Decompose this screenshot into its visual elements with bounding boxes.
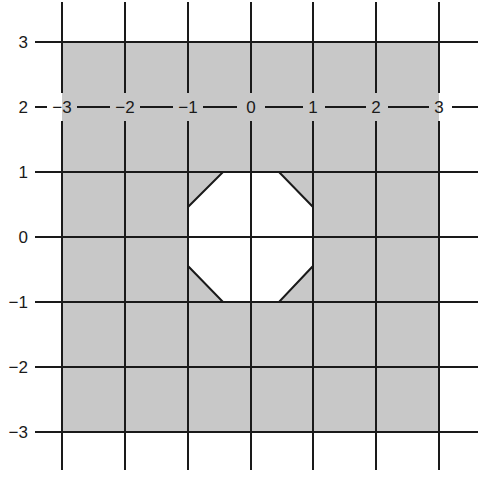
x-tick-label: −3: [52, 98, 71, 117]
y-tick-label: −3: [9, 423, 28, 442]
x-tick-label: 0: [246, 98, 255, 117]
y-tick-label: 0: [19, 228, 28, 247]
x-tick-label: 1: [308, 98, 317, 117]
y-tick-label: 1: [19, 163, 28, 182]
y-tick-label: −2: [9, 358, 28, 377]
y-tick-label: 2: [19, 98, 28, 117]
y-tick-label: 3: [19, 33, 28, 52]
x-tick-label: 2: [371, 98, 380, 117]
x-tick-label: −1: [178, 98, 197, 117]
y-tick-label: −1: [9, 293, 28, 312]
y-tick-labels: 3 2 1 0 −1 −2 −3: [9, 33, 28, 442]
x-tick-label: −2: [115, 98, 134, 117]
x-tick-label: 3: [434, 98, 443, 117]
coordinate-grid-figure: −3 −2 −1 0 1 2 3 3 2 1 0 −1 −2 −3: [0, 0, 479, 484]
